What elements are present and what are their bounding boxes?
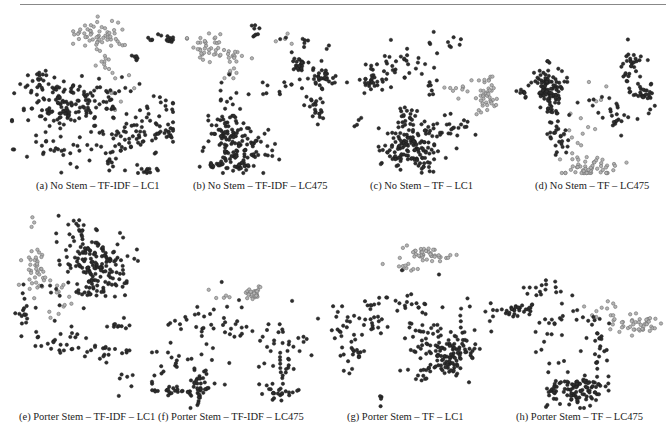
scatter-plot-f	[150, 280, 320, 410]
subfigure-c	[345, 10, 500, 175]
scatter-plot-b	[185, 10, 345, 175]
caption-c: (c) No Stem – TF – LC1	[370, 180, 473, 192]
subfigure-a	[10, 10, 175, 175]
scatter-plot-c	[345, 10, 500, 175]
caption-e: (e) Porter Stem – TF-IDF – LC1	[19, 411, 159, 423]
scatter-plot-a	[10, 10, 175, 175]
caption-f: (f) Porter Stem – TF-IDF – LC475	[158, 411, 304, 423]
caption-d: (d) No Stem – TF – LC475	[535, 180, 649, 192]
subfigure-b	[185, 10, 345, 175]
caption-h: (h) Porter Stem – TF – LC475	[516, 411, 643, 423]
scatter-plot-e	[10, 200, 140, 405]
scatter-plot-g	[325, 240, 495, 410]
scatter-plot-d	[505, 10, 665, 175]
caption-a: (a) No Stem – TF-IDF – LC1	[36, 180, 159, 192]
caption-g: (g) Porter Stem – TF – LC1	[347, 411, 463, 423]
scatter-plot-h	[495, 270, 665, 410]
subfigure-d	[505, 10, 665, 175]
subfigure-h	[495, 270, 665, 410]
page-header-rule	[20, 4, 666, 5]
caption-b: (b) No Stem – TF-IDF – LC475	[193, 180, 328, 192]
subfigure-e	[10, 200, 140, 405]
subfigure-f	[150, 280, 320, 410]
subfigure-g	[325, 240, 495, 410]
